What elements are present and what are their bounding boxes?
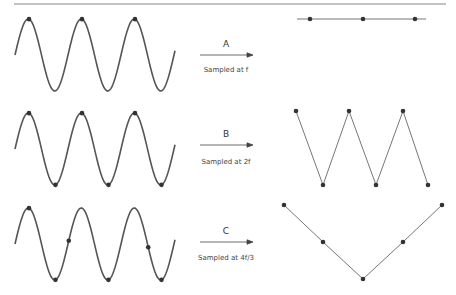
caption-b: Sampled at 2f <box>181 158 271 166</box>
sample-dot <box>27 111 32 116</box>
output-dot <box>294 109 299 114</box>
label-c: C <box>186 226 266 236</box>
sine-wave-b <box>15 113 175 185</box>
arrow-head-icon <box>247 143 253 147</box>
label-a: A <box>186 39 266 49</box>
caption-c: Sampled at 4f/3 <box>181 254 271 262</box>
sample-dot <box>133 111 138 116</box>
arrow-head-icon <box>247 240 253 244</box>
output-c-line <box>284 205 442 279</box>
arrow-head-icon <box>247 53 253 57</box>
sample-dot <box>27 206 32 211</box>
output-dot <box>401 240 406 245</box>
sample-dot <box>159 183 164 188</box>
sample-dot <box>159 278 164 283</box>
output-dot <box>321 183 326 188</box>
sine-wave-c <box>15 208 175 280</box>
output-dot <box>361 17 366 22</box>
output-dot <box>282 203 287 208</box>
sample-dot <box>80 111 85 116</box>
output-dot <box>321 240 326 245</box>
sample-dot <box>53 278 58 283</box>
output-dot <box>347 109 352 114</box>
sample-dot <box>146 245 151 250</box>
sample-dot <box>27 17 32 22</box>
output-dot <box>308 17 313 22</box>
sample-dot <box>66 239 71 244</box>
output-dot <box>426 183 431 188</box>
output-dot <box>361 277 366 282</box>
sample-dot <box>106 183 111 188</box>
sample-dot <box>106 278 111 283</box>
output-dot <box>401 109 406 114</box>
sample-dot <box>80 17 85 22</box>
sample-dot <box>133 17 138 22</box>
sample-dot <box>53 183 58 188</box>
output-dot <box>440 203 445 208</box>
output-b-line <box>296 111 428 185</box>
output-dot <box>374 183 379 188</box>
label-b: B <box>186 129 266 139</box>
caption-a: Sampled at f <box>181 66 271 74</box>
output-dot <box>413 17 418 22</box>
sine-wave-a <box>15 19 175 91</box>
